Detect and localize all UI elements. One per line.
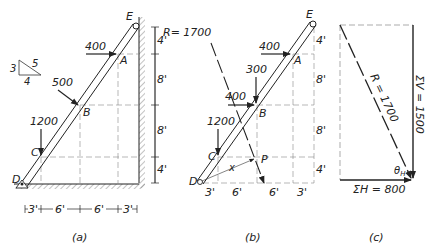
hdim-a-3: 6' (94, 203, 104, 216)
pin-d-b (198, 180, 203, 185)
hdim-a-4: 3' (123, 203, 133, 216)
point-a-label: A (119, 54, 128, 67)
point-e-label-b: E (306, 8, 313, 21)
load-label-a-b: 400 (259, 40, 280, 53)
hdim-a-1: 3' (28, 203, 38, 216)
statics-diagram: 3 5 4 400 500 (0, 0, 437, 247)
sum-v-label: ΣV = 1500 (413, 75, 426, 134)
load-label-c-b: 1200 (207, 115, 235, 128)
ground-hatch (14, 184, 145, 189)
horizontal-dimension-a (25, 205, 137, 213)
load-arrow-b (58, 90, 78, 105)
point-c-label-b: C (208, 150, 216, 163)
point-d-label: D (12, 173, 20, 186)
resultant-label-c: R = 1700 (367, 72, 401, 124)
slope-triangle: 3 5 4 (10, 58, 41, 87)
point-e-label: E (126, 10, 133, 23)
panel-a: 400 500 1200 E A B C D 4' 8' 8' 4' (12, 10, 167, 244)
load-label-bv: 300 (246, 63, 267, 76)
caption-b: (b) (245, 231, 261, 244)
vdim-b-4: 4' (316, 163, 326, 176)
vdim-b-1: 4' (316, 34, 326, 47)
hdim-b-1: 3' (205, 186, 215, 199)
point-b-label: B (83, 106, 91, 119)
load-label-a: 400 (85, 40, 106, 53)
wall-hatch (139, 17, 145, 188)
caption-a: (a) (72, 231, 87, 244)
vdim-a-2: 8' (157, 73, 167, 86)
load-label-b: 500 (52, 76, 73, 89)
slope-hyp-label: 5 (32, 58, 38, 69)
pin-d (21, 183, 24, 186)
vdim-a-4: 4' (157, 163, 167, 176)
vdim-a-3: 8' (157, 124, 167, 137)
angle-label: θH (394, 165, 406, 178)
sum-h-label: ΣH = 800 (353, 183, 405, 196)
load-label-bh: 400 (225, 90, 246, 103)
point-b-label-b: B (259, 107, 267, 120)
resultant-label-b: R= 1700 (163, 26, 211, 39)
panel-b: R= 1700 400 300 400 1200 x E A B C D P 4… (155, 8, 326, 244)
vdim-b-3: 8' (316, 124, 326, 137)
distance-x-label: x (228, 162, 235, 173)
hdim-b-4: 3' (297, 186, 307, 199)
panel-c: R = 1700 ΣV = 1500 ΣH = 800 θH (c) (340, 25, 426, 244)
point-c-label: C (31, 146, 39, 159)
slope-rise-label: 3 (10, 63, 16, 74)
point-d-label-b: D (189, 175, 197, 188)
vdim-b-2: 8' (316, 73, 326, 86)
angle-subscript: H (400, 170, 406, 178)
hdim-b-2: 6' (232, 186, 242, 199)
resultant-arrow-c (340, 25, 411, 178)
hdim-b-3: 6' (269, 186, 279, 199)
caption-c: (c) (369, 231, 384, 244)
slope-run-label: 4 (24, 76, 30, 87)
pin-e (133, 23, 139, 29)
load-label-c: 1200 (30, 115, 58, 128)
hdim-a-2: 6' (55, 203, 65, 216)
point-a-label-b: A (293, 54, 302, 67)
point-p-label: P (261, 153, 268, 166)
beam-de (19, 23, 139, 188)
